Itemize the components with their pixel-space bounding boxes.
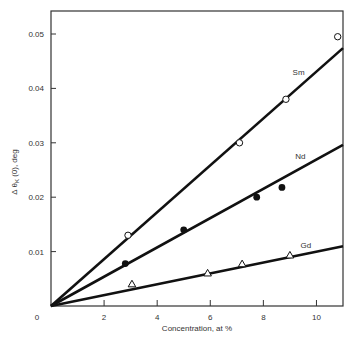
series-label-sm: Sm xyxy=(293,68,305,77)
filled-circle-marker xyxy=(279,184,286,191)
y-tick-label: 0.04 xyxy=(28,84,44,93)
x-tick-label: 0 xyxy=(35,313,40,322)
open-circle-marker xyxy=(236,140,242,146)
y-axis-title-suffix: (0), deg xyxy=(10,149,19,179)
x-tick-label: 2 xyxy=(102,313,107,322)
open-circle-marker xyxy=(125,232,131,238)
y-tick-label: 0.01 xyxy=(28,248,44,257)
x-axis-title: Concentration, at % xyxy=(162,324,232,333)
series-labels: SmNdGd xyxy=(293,68,312,250)
open-triangle-marker xyxy=(238,260,246,267)
y-tick-label: 0.02 xyxy=(28,193,44,202)
y-axis-title-prefix: Δ θ xyxy=(10,183,19,195)
kerr-rotation-chart: 02468100.010.020.030.040.05 SmNdGd Conce… xyxy=(0,0,354,349)
open-triangle-marker xyxy=(286,251,294,258)
x-tick-label: 6 xyxy=(208,313,213,322)
fit-lines xyxy=(51,48,343,306)
open-triangle-marker xyxy=(128,280,136,287)
fit-line-sm xyxy=(51,48,343,306)
filled-circle-marker xyxy=(180,226,187,233)
series-label-nd: Nd xyxy=(295,152,305,161)
open-circle-marker xyxy=(283,96,289,102)
series-label-gd: Gd xyxy=(301,241,312,250)
filled-circle-marker xyxy=(253,194,260,201)
x-tick-label: 4 xyxy=(155,313,160,322)
y-tick-label: 0.03 xyxy=(28,139,44,148)
x-tick-label: 8 xyxy=(261,313,266,322)
axis-ticks: 02468100.010.020.030.040.05 xyxy=(28,30,321,322)
fit-line-gd xyxy=(51,246,343,306)
x-tick-label: 10 xyxy=(312,313,321,322)
fit-line-nd xyxy=(51,145,343,306)
y-axis-title: Δ θK (0), deg xyxy=(10,149,20,194)
open-circle-marker xyxy=(334,34,340,40)
filled-circle-marker xyxy=(122,260,129,267)
y-tick-label: 0.05 xyxy=(28,30,44,39)
